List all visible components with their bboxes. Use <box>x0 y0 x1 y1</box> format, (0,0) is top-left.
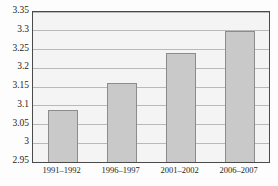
bar <box>48 110 78 163</box>
y-tick-label: 3.3 <box>17 25 29 35</box>
y-tick-label: 3.15 <box>12 81 29 91</box>
y-tick-label: 3.2 <box>17 63 29 73</box>
bar <box>166 53 196 162</box>
x-tick-label: 2006–2007 <box>219 166 257 175</box>
x-tick-label: 1991–1992 <box>42 166 80 175</box>
y-tick-label: 3.25 <box>12 44 29 54</box>
y-tick-label: 3.05 <box>12 119 29 129</box>
plot-area <box>32 11 270 163</box>
bars-group <box>33 12 269 162</box>
bar <box>107 83 137 162</box>
x-tick-label: 2001–2002 <box>160 166 198 175</box>
bar <box>225 31 255 162</box>
x-axis: 1991–19921996–19972001–20022006–2007 <box>32 166 270 180</box>
y-tick-label: 2.95 <box>12 156 29 166</box>
y-axis: 2.9533.053.13.153.23.253.33.35 <box>0 11 30 163</box>
y-tick-label: 3 <box>24 138 29 148</box>
y-tick-label: 3.1 <box>17 100 29 110</box>
bar-chart: 2.9533.053.13.153.23.253.33.35 1991–1992… <box>0 0 278 186</box>
y-tick-label: 3.35 <box>12 6 29 16</box>
x-tick-label: 1996–1997 <box>101 166 139 175</box>
